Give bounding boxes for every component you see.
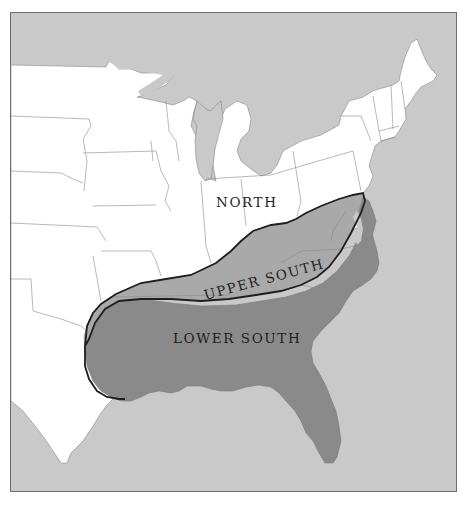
map-svg: NORTH UPPER SOUTH LOWER SOUTH bbox=[11, 13, 457, 492]
label-north: NORTH bbox=[216, 194, 278, 210]
label-lower-south: LOWER SOUTH bbox=[173, 330, 301, 346]
map-frame: NORTH UPPER SOUTH LOWER SOUTH bbox=[10, 12, 457, 492]
